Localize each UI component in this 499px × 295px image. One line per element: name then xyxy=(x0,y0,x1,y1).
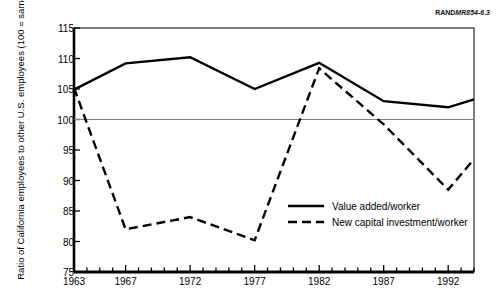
axes-group xyxy=(74,28,474,272)
legend-label-1: Value added/worker xyxy=(332,201,421,212)
series-line-1 xyxy=(74,57,474,107)
chart-legend: Value added/workerNew capital investment… xyxy=(288,201,468,228)
plot-frame xyxy=(74,28,474,272)
chart-figure: RANDMR854-6.3 Ratio of California employ… xyxy=(0,0,499,295)
legend-label-2: New capital investment/worker xyxy=(332,217,468,228)
plot-area: Value added/workerNew capital investment… xyxy=(0,0,499,295)
series-line-2 xyxy=(74,68,474,240)
data-series-group xyxy=(74,57,474,240)
